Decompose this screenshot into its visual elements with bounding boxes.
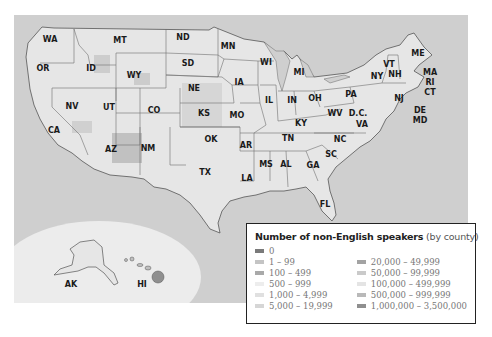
legend-swatch <box>357 260 366 264</box>
state-label-md: MD <box>413 116 428 125</box>
state-label-ga: GA <box>307 161 321 170</box>
legend-swatch <box>357 282 366 286</box>
state-label-tn: TN <box>282 134 294 143</box>
high-density-region-ca <box>72 121 92 133</box>
legend-swatch <box>357 304 366 308</box>
legend-label: 100 – 499 <box>269 268 311 278</box>
state-label-wi: WI <box>260 58 272 67</box>
state-label-or: OR <box>37 64 50 73</box>
state-label-hi: HI <box>137 280 147 289</box>
state-label-ca: CA <box>48 126 61 135</box>
state-label-ak: AK <box>65 280 78 289</box>
state-label-ky: KY <box>295 119 307 128</box>
state-label-ms: MS <box>259 160 273 169</box>
state-label-ut: UT <box>103 103 115 112</box>
state-label-mo: MO <box>230 111 245 120</box>
legend-label: 1 – 99 <box>269 257 295 267</box>
state-label-nd: ND <box>176 33 190 42</box>
state-label-ks: KS <box>198 109 210 118</box>
legend-swatch <box>357 271 366 275</box>
state-label-ma: MA <box>423 68 438 77</box>
legend-item: 100,000 – 499,999 <box>357 278 467 289</box>
state-label-az: AZ <box>105 145 117 154</box>
legend-item: 500,000 – 999,999 <box>357 289 467 300</box>
state-label-pa: PA <box>345 90 357 99</box>
state-label-fl: FL <box>320 200 331 209</box>
legend-item: 500 – 999 <box>255 278 357 289</box>
legend-title: Number of non-English speakers (by count… <box>255 231 467 242</box>
legend-item: 100 – 499 <box>255 267 357 278</box>
legend-swatch <box>357 293 366 297</box>
state-label-ar: AR <box>240 141 252 150</box>
state-label-mn: MN <box>221 42 236 51</box>
state-label-id: ID <box>86 64 96 73</box>
legend-swatch <box>255 293 264 297</box>
legend-title-subtitle: (by county) <box>426 231 478 242</box>
state-label-vt: VT <box>383 60 395 69</box>
legend-item: 5,000 – 19,999 <box>255 300 357 311</box>
state-label-oh: OH <box>308 94 322 103</box>
legend-label: 50,000 – 99,999 <box>371 268 440 278</box>
legend-label: 20,000 – 49,999 <box>371 257 440 267</box>
state-label-me: ME <box>411 49 424 58</box>
state-label-ny: NY <box>371 72 384 81</box>
high-density-region-id <box>94 55 110 73</box>
state-label-mi: MI <box>294 68 305 77</box>
state-label-nh: NH <box>388 70 401 79</box>
state-label-nj: NJ <box>394 94 404 103</box>
legend-item: 50,000 – 99,999 <box>357 267 467 278</box>
state-label-sc: SC <box>325 150 337 159</box>
legend-item: 1 – 99 <box>255 256 357 267</box>
state-label-wv: WV <box>327 109 343 118</box>
state-label-ia: IA <box>234 78 244 87</box>
state-label-wy: WY <box>127 71 142 80</box>
state-label-ok: OK <box>205 135 219 144</box>
legend-column-right: 20,000 – 49,999 50,000 – 99,999 100,000 … <box>357 245 467 311</box>
state-label-de: DE <box>414 106 426 115</box>
alaska-hawaii-inset <box>14 221 201 303</box>
state-label-dc: D.C. <box>349 109 368 118</box>
legend-item: 1,000,000 – 3,500,000 <box>357 300 467 311</box>
state-label-nv: NV <box>66 102 80 111</box>
state-label-ri: RI <box>425 78 434 87</box>
state-label-wa: WA <box>43 35 58 44</box>
state-label-mt: MT <box>113 36 127 45</box>
legend-swatch <box>255 271 264 275</box>
state-label-la: LA <box>241 174 253 183</box>
state-label-co: CO <box>148 106 161 115</box>
state-label-va: VA <box>356 120 369 129</box>
state-label-tx: TX <box>199 168 211 177</box>
state-label-nc: NC <box>334 135 347 144</box>
legend-item: 20,000 – 49,999 <box>357 256 467 267</box>
state-label-il: IL <box>265 96 273 105</box>
state-label-in: IN <box>287 96 297 105</box>
legend: Number of non-English speakers (by count… <box>246 223 476 324</box>
state-label-sd: SD <box>182 59 195 68</box>
legend-label: 100,000 – 499,999 <box>371 279 451 289</box>
legend-label: 1,000 – 4,999 <box>269 290 327 300</box>
legend-label: 1,000,000 – 3,500,000 <box>371 301 467 311</box>
legend-item: 1,000 – 4,999 <box>255 289 357 300</box>
legend-label: 0 <box>269 246 274 256</box>
legend-label: 500 – 999 <box>269 279 311 289</box>
legend-swatch <box>255 249 264 253</box>
state-label-al: AL <box>280 160 291 169</box>
state-label-ct: CT <box>424 88 436 97</box>
legend-column-left: 0 1 – 99 100 – 499 500 – 999 1,000 – 4,9… <box>255 245 357 311</box>
legend-item: 0 <box>255 245 357 256</box>
legend-swatch <box>255 260 264 264</box>
legend-swatch <box>255 304 264 308</box>
legend-title-main: Number of non-English speakers <box>255 231 423 242</box>
legend-swatch <box>255 282 264 286</box>
state-label-nm: NM <box>141 144 156 153</box>
legend-label: 500,000 – 999,999 <box>371 290 451 300</box>
legend-label: 5,000 – 19,999 <box>269 301 333 311</box>
state-label-ne: NE <box>188 84 200 93</box>
